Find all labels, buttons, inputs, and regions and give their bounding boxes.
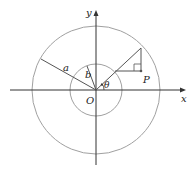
inner-radius-label: b [85,69,91,80]
point-p-label: P [142,74,150,85]
ellipse-construction-diagram: y x O a b P θ [0,0,191,173]
x-axis-label: x [181,93,187,104]
y-axis-arrow-icon [94,10,99,16]
point-p-dot [140,70,143,73]
right-angle-marker [134,64,141,71]
outer-radius-label: a [63,62,69,73]
angle-theta-label: θ [104,80,110,90]
origin-label: O [86,95,94,106]
x-axis-arrow-icon [180,88,186,93]
y-axis-label: y [85,7,92,18]
